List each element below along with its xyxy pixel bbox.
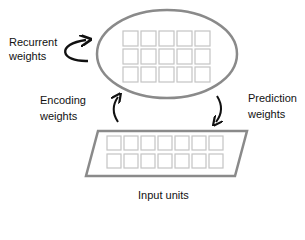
recurrent-label-line1: Recurrent	[9, 35, 57, 49]
encoding-label-line1: Encoding	[40, 93, 86, 107]
encoding-weights-label: Encoding weights	[40, 93, 86, 123]
recurrent-label-line2: weights	[9, 49, 57, 63]
prediction-weights-label: Prediction weights	[248, 91, 297, 121]
recurrent-weights-label: Recurrent weights	[9, 35, 57, 63]
prediction-label-line1: Prediction	[248, 91, 297, 105]
prediction-arrow-icon	[216, 96, 221, 122]
hidden-unit-grid	[123, 31, 210, 82]
input-units-label: Input units	[138, 188, 189, 202]
encoding-arrow-icon	[114, 97, 118, 122]
recurrent-arrow-icon	[65, 40, 88, 61]
prediction-label-line2: weights	[248, 107, 297, 121]
encoding-label-line2: weights	[40, 109, 86, 123]
